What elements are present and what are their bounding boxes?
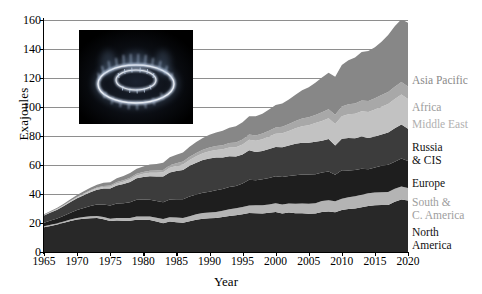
x-tick-label: 2010 [330, 255, 353, 267]
x-tick-label: 1980 [132, 255, 155, 267]
x-tick-label: 1995 [231, 255, 254, 267]
y-tick-label: 140 [3, 42, 41, 57]
y-tick-label: 160 [3, 13, 41, 28]
x-axis-line [43, 252, 409, 253]
legend-item-south-c-america: South & C. America [412, 196, 482, 221]
legend-item-africa: Africa [412, 101, 482, 114]
x-tick-label: 1985 [165, 255, 188, 267]
y-tick-label: 120 [3, 71, 41, 86]
legend-item-asia-pacific: Asia Pacific [412, 74, 482, 87]
legend-item-north-america: North America [412, 226, 482, 251]
y-tick-label: 20 [3, 216, 41, 231]
legend-item-russia-cis: Russia & CIS [412, 141, 482, 166]
gas-burner-flame-photo [79, 30, 193, 124]
x-tick-label: 1975 [99, 255, 122, 267]
y-tick-label: 60 [3, 158, 41, 173]
y-axis-tick-labels: 160 140 120 100 80 60 40 20 0 [0, 0, 41, 294]
y-tick-label: 80 [3, 129, 41, 144]
x-axis-title: Year [44, 274, 408, 290]
x-tick-label: 1990 [198, 255, 221, 267]
x-tick-label: 2020 [397, 255, 420, 267]
x-tick-label: 2015 [363, 255, 386, 267]
chart-figure: Exajoules 160 140 120 100 80 60 40 20 0 [0, 0, 482, 294]
legend-item-middle-east: Middle East [412, 118, 482, 131]
legend-item-europe: Europe [412, 177, 482, 190]
y-tick-label: 40 [3, 187, 41, 202]
x-tick-label: 2005 [297, 255, 320, 267]
x-tick-label: 1965 [33, 255, 56, 267]
x-tick-label: 1970 [66, 255, 89, 267]
x-tick-label: 2000 [264, 255, 287, 267]
y-tick-label: 100 [3, 100, 41, 115]
